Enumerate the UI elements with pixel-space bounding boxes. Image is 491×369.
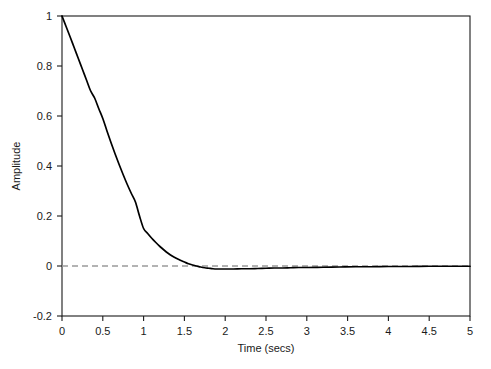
x-tick-label: 1.5: [177, 325, 192, 337]
x-tick-label: 3.5: [340, 325, 355, 337]
x-tick-label: 3: [304, 325, 310, 337]
x-axis-title: Time (secs): [237, 342, 294, 354]
y-tick-label: 0.8: [37, 60, 52, 72]
y-tick-label: 0.6: [37, 110, 52, 122]
amplitude-vs-time-chart: 00.511.522.533.544.55 -0.200.20.40.60.81…: [0, 0, 491, 369]
y-tick-label: 0.4: [37, 160, 52, 172]
x-tick-label: 5: [467, 325, 473, 337]
x-tick-label: 1: [141, 325, 147, 337]
chart-background: [0, 0, 491, 369]
x-tick-label: 2: [222, 325, 228, 337]
y-tick-label: 1: [46, 10, 52, 22]
x-tick-label: 2.5: [258, 325, 273, 337]
x-tick-label: 0: [59, 325, 65, 337]
x-tick-label: 4.5: [422, 325, 437, 337]
x-tick-label: 4: [385, 325, 391, 337]
y-axis-title: Amplitude: [10, 142, 22, 191]
y-tick-label: 0: [46, 260, 52, 272]
y-tick-label: -0.2: [33, 310, 52, 322]
chart-page: 00.511.522.533.544.55 -0.200.20.40.60.81…: [0, 0, 491, 369]
y-tick-label: 0.2: [37, 210, 52, 222]
x-tick-label: 0.5: [95, 325, 110, 337]
